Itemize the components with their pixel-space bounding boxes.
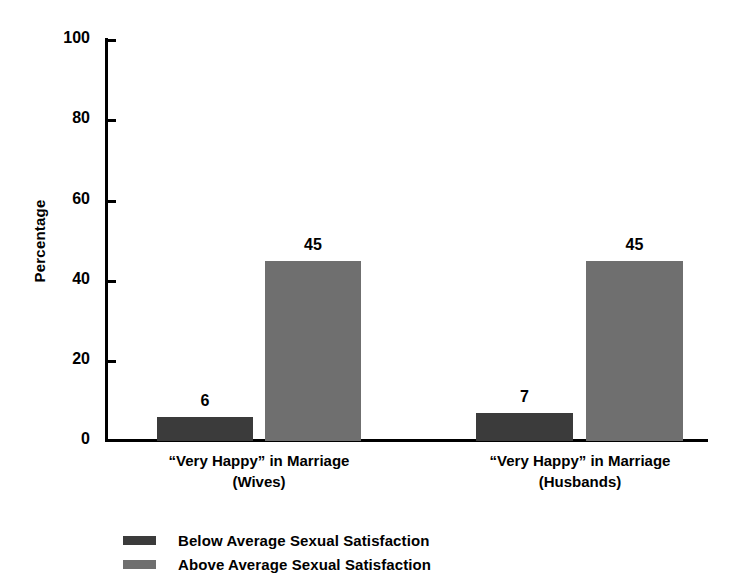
bar-wives-above-average: 45 — [265, 261, 361, 441]
bar-value-label: 45 — [626, 237, 644, 253]
bar-chart: Percentage 100 80 60 40 20 0 6 45 7 45 — [0, 0, 733, 576]
y-tick-label: 0 — [38, 431, 90, 447]
x-category-line2: (Wives) — [119, 471, 399, 492]
y-axis-title: Percentage — [31, 161, 53, 321]
bar-husbands-below-average: 7 — [476, 413, 573, 441]
bar-husbands-above-average: 45 — [586, 261, 683, 441]
y-tick-mark — [105, 39, 116, 42]
legend-item-label: Above Average Sexual Satisfaction — [178, 556, 431, 573]
legend-item-label: Below Average Sexual Satisfaction — [178, 532, 429, 549]
legend-swatch-icon — [123, 536, 156, 545]
x-category-line2: (Husbands) — [440, 471, 720, 492]
legend: Below Average Sexual Satisfaction Above … — [123, 528, 431, 576]
bar-value-label: 7 — [520, 389, 529, 405]
y-tick-label: 60 — [38, 191, 90, 207]
bar-value-label: 6 — [201, 393, 210, 409]
x-category-label-wives: “Very Happy” in Marriage (Wives) — [119, 450, 399, 492]
x-category-label-husbands: “Very Happy” in Marriage (Husbands) — [440, 450, 720, 492]
legend-item-below-average: Below Average Sexual Satisfaction — [123, 528, 431, 552]
x-category-line1: “Very Happy” in Marriage — [490, 452, 671, 469]
legend-swatch-icon — [123, 560, 156, 569]
y-tick-label: 40 — [38, 271, 90, 287]
y-tick-label: 80 — [38, 110, 90, 126]
y-tick-mark — [105, 360, 116, 363]
x-category-line1: “Very Happy” in Marriage — [169, 452, 350, 469]
bar-wives-below-average: 6 — [157, 417, 253, 441]
y-tick-label: 20 — [38, 351, 90, 367]
y-axis-line — [105, 38, 108, 442]
y-tick-mark — [105, 119, 116, 122]
legend-item-above-average: Above Average Sexual Satisfaction — [123, 552, 431, 576]
y-tick-label: 100 — [38, 30, 90, 46]
y-tick-mark — [105, 280, 116, 283]
bar-value-label: 45 — [304, 237, 322, 253]
y-tick-mark — [105, 200, 116, 203]
